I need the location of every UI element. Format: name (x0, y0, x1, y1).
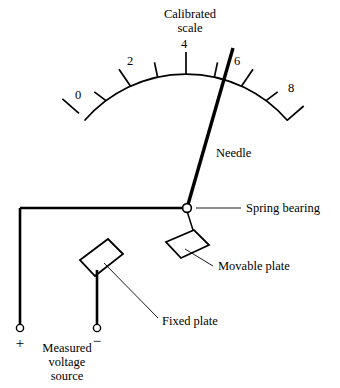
scale-number-8: 8 (288, 81, 294, 95)
diagram-canvas: Calibrated scale 0 (0, 0, 340, 388)
positive-sign-label: + (16, 335, 24, 351)
source-label-line-1: Measured (42, 341, 92, 355)
tick-minor-3 (155, 62, 158, 77)
movable-plate-label: Movable plate (218, 259, 290, 273)
measured-voltage-source-caption: Measured voltage source (42, 341, 92, 383)
scale-number-0: 0 (75, 88, 81, 102)
needle-label: Needle (216, 146, 252, 160)
fixed-plate-label: Fixed plate (162, 314, 218, 328)
positive-terminal (16, 324, 23, 331)
source-label-line-3: source (51, 369, 84, 383)
scale-arc (85, 74, 287, 120)
source-label-line-2: voltage (49, 355, 86, 369)
voltmeter-diagram: Calibrated scale 0 (0, 0, 340, 388)
calibrated-scale-title: Calibrated scale (164, 7, 217, 35)
fixed-plate-leader (104, 263, 158, 318)
tick-major-8 (287, 106, 304, 120)
tick-major-6 (242, 69, 253, 86)
scale-title-line-2: scale (178, 21, 203, 35)
tick-minor-7 (266, 92, 278, 101)
tick-minor-5 (214, 62, 217, 77)
bearing-to-movable-plate-link (187, 211, 193, 230)
negative-terminal (93, 324, 100, 331)
spring-bearing-pivot (183, 204, 192, 213)
scale-ticks (62, 52, 303, 120)
scale-title-line-1: Calibrated (164, 7, 217, 21)
movable-plate (166, 230, 209, 258)
tick-major-2 (119, 69, 130, 86)
spring-bearing-label: Spring bearing (246, 201, 321, 215)
negative-sign-label: − (93, 333, 101, 349)
fixed-plate (80, 239, 123, 276)
tick-minor-1 (94, 92, 106, 101)
scale-numbers: 0 2 4 6 8 (75, 37, 294, 102)
scale-number-2: 2 (127, 54, 133, 68)
scale-number-4: 4 (181, 37, 188, 51)
movable-plate-leader (185, 249, 213, 266)
needle-pointer (187, 48, 233, 208)
scale-number-6: 6 (234, 54, 240, 68)
